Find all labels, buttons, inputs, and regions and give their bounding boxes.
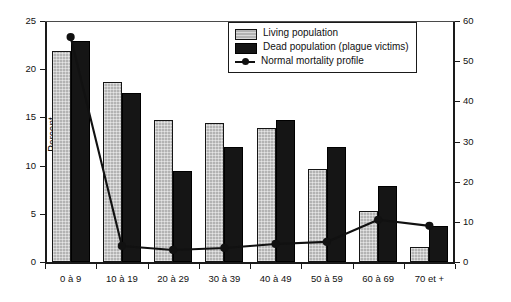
x-axis-tick-label: 0 à 9: [45, 273, 96, 284]
x-axis-tick: [96, 264, 97, 269]
x-axis-tick: [404, 264, 405, 269]
y-axis-right-tick-label: 10: [463, 217, 497, 227]
x-axis-tick: [455, 264, 456, 269]
y-axis-right-tick: [455, 142, 460, 143]
x-axis-tick: [250, 264, 251, 269]
chart-legend: Living population Dead population (plagu…: [228, 22, 417, 73]
legend-swatch-dead-icon: [235, 43, 257, 54]
legend-swatch-living-icon: [235, 29, 257, 40]
legend-label: Dead population (plague victims): [263, 41, 409, 53]
line-data-point: [67, 33, 75, 41]
x-axis-tick-label: 70 et +: [404, 273, 455, 284]
x-axis-tick: [353, 264, 354, 269]
x-axis-tick-label: 50 à 59: [301, 273, 352, 284]
y-axis-right-tick-label: 0: [463, 257, 497, 267]
y-axis-right-tick: [455, 101, 460, 102]
y-axis-left-tick-label: 5: [4, 209, 36, 219]
x-axis-tick: [148, 264, 149, 269]
x-axis-tick-label: 60 à 69: [353, 273, 404, 284]
line-data-point: [169, 246, 177, 254]
y-axis-right-tick: [455, 182, 460, 183]
y-axis-right-tick: [455, 262, 460, 263]
line-data-point: [374, 216, 382, 224]
y-axis-right-tick-label: 50: [463, 56, 497, 66]
x-axis-tick-label: 10 à 19: [96, 273, 147, 284]
line-data-point: [323, 238, 331, 246]
x-axis-tick: [199, 264, 200, 269]
legend-item-normal-mortality-profile: Normal mortality profile: [235, 55, 409, 67]
x-axis-tick-label: 40 à 49: [250, 273, 301, 284]
y-axis-left-tick-label: 25: [4, 16, 36, 26]
y-axis-left-tick-label: 10: [4, 161, 36, 171]
y-axis-left-tick-label: 20: [4, 64, 36, 74]
y-axis-right-tick-label: 60: [463, 16, 497, 26]
y-axis-right-tick-label: 30: [463, 137, 497, 147]
legend-line-marker-icon: [235, 57, 255, 66]
y-axis-right-tick: [455, 222, 460, 223]
y-axis-right-tick-label: 20: [463, 177, 497, 187]
line-data-point: [425, 222, 433, 230]
x-axis-tick: [45, 264, 46, 269]
legend-label: Normal mortality profile: [261, 55, 364, 67]
y-axis-left-tick-label: 15: [4, 112, 36, 122]
y-axis-right-tick: [455, 61, 460, 62]
legend-label: Living population: [263, 27, 338, 39]
line-data-point: [220, 244, 228, 252]
y-axis-right-tick-label: 40: [463, 96, 497, 106]
legend-item-living-population: Living population: [235, 27, 409, 40]
chart-figure: Percent 0510152025 0102030405060 0 à 910…: [0, 0, 511, 302]
y-axis-right-tick: [455, 21, 460, 22]
legend-item-dead-population: Dead population (plague victims): [235, 41, 409, 54]
line-data-point: [272, 240, 280, 248]
x-axis-tick-label: 30 à 39: [199, 273, 250, 284]
x-axis-tick-label: 20 à 29: [148, 273, 199, 284]
line-data-point: [118, 242, 126, 250]
x-axis-tick: [301, 264, 302, 269]
y-axis-left-tick-label: 0: [4, 257, 36, 267]
